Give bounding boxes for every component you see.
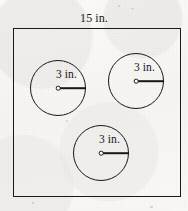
circle-left: 3 in. [30, 60, 86, 116]
circle-bottom-radius-label: 3 in. [99, 133, 120, 145]
circle-top-right-radius-label: 3 in. [134, 61, 155, 73]
paper-speck [32, 202, 34, 204]
geometry-figure: 15 in. 3 in. 3 in. 3 in. [0, 0, 188, 211]
circle-bottom-center-point [99, 151, 104, 156]
paper-speck [118, 5, 120, 7]
circle-left-radius-line [58, 87, 86, 89]
circle-bottom: 3 in. [73, 125, 129, 181]
circle-top-right-center-point [134, 79, 139, 84]
circle-top-right-radius-line [136, 80, 164, 82]
circle-bottom-radius-line [101, 152, 129, 154]
paper-speck [150, 206, 153, 208]
circle-top-right: 3 in. [108, 53, 164, 109]
square-width-label: 15 in. [0, 11, 188, 25]
paper-speck [131, 8, 134, 9]
circle-left-center-point [56, 86, 61, 91]
circle-left-radius-label: 3 in. [56, 68, 77, 80]
